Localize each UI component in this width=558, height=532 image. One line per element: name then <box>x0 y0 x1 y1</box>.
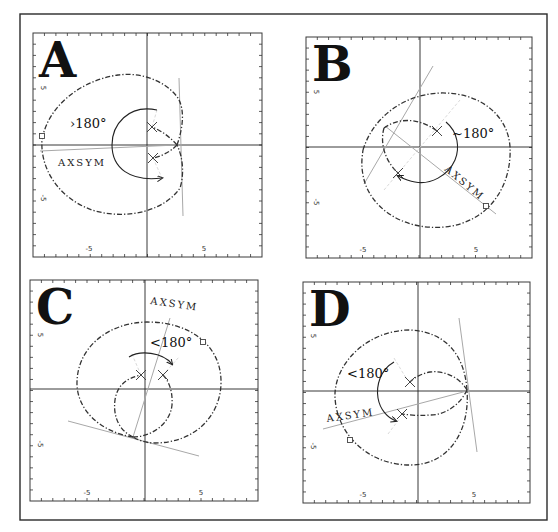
root-locus-curve <box>133 375 172 437</box>
pole-cross-icon <box>148 153 158 163</box>
panel-c: -555-5C<180°AXSYM <box>30 279 258 501</box>
root-locus-curve <box>77 322 221 443</box>
guide-line <box>394 358 406 378</box>
pole-cross-icon <box>158 370 168 380</box>
angle-label: ›180° <box>70 116 107 131</box>
x-tick-label: -5 <box>84 489 91 497</box>
guide-line <box>153 158 162 178</box>
square-marker-icon <box>484 204 489 209</box>
root-locus-curve <box>115 375 141 437</box>
square-marker-icon <box>40 134 45 139</box>
y-tick-label: -5 <box>36 441 44 448</box>
angle-label: ~180° <box>452 126 494 141</box>
x-tick-label: -5 <box>360 491 367 499</box>
pole-cross-icon <box>136 370 146 380</box>
panel-letter: C <box>36 279 74 335</box>
figure-outer-frame <box>20 14 547 520</box>
panel-a: -555-5A›180°AXSYM <box>33 32 262 257</box>
panel-letter: B <box>312 36 353 92</box>
root-locus-curve <box>384 120 437 131</box>
axis-of-symmetry-line <box>40 145 177 151</box>
x-tick-label: 5 <box>202 245 206 253</box>
pole-cross-icon <box>405 377 415 387</box>
angle-arc-arrow-icon <box>129 353 172 364</box>
pole-cross-icon <box>397 409 407 419</box>
x-tick-label: -5 <box>360 246 367 254</box>
tangent-line <box>68 421 199 456</box>
panel-b: -555-5B~180°AXSYM <box>306 36 532 258</box>
axsym-label: AXSYM <box>149 295 199 313</box>
x-tick-label: 5 <box>472 491 476 499</box>
x-tick-label: 5 <box>474 246 478 254</box>
y-tick-label: -5 <box>39 195 47 202</box>
square-marker-icon <box>201 340 206 345</box>
panels-group: -555-5A›180°AXSYM-555-5B~180°AXSYM-555-5… <box>30 32 532 503</box>
root-locus-curve <box>335 330 467 465</box>
angle-label: <180° <box>347 366 389 381</box>
root-locus-curve <box>153 145 177 158</box>
x-tick-label: -5 <box>86 245 93 253</box>
panel-letter: A <box>38 32 77 88</box>
pole-cross-icon <box>147 122 157 132</box>
root-locus-curve <box>410 372 467 390</box>
panel-d: -555-5D<180°AXSYM <box>303 281 530 503</box>
y-tick-label: -5 <box>312 199 320 206</box>
tangent-line <box>179 78 183 216</box>
tangent-line <box>459 318 477 452</box>
axsym-label: AXSYM <box>57 157 106 168</box>
angle-label: <180° <box>150 335 192 350</box>
root-locus-curve <box>152 127 177 145</box>
tangent-line <box>364 66 433 184</box>
square-marker-icon <box>348 438 353 443</box>
panel-letter: D <box>309 281 351 337</box>
root-locus-figure: -555-5A›180°AXSYM-555-5B~180°AXSYM-555-5… <box>0 0 558 532</box>
x-tick-label: 5 <box>199 489 203 497</box>
axsym-label: AXSYM <box>442 162 487 202</box>
y-tick-label: -5 <box>309 443 317 450</box>
